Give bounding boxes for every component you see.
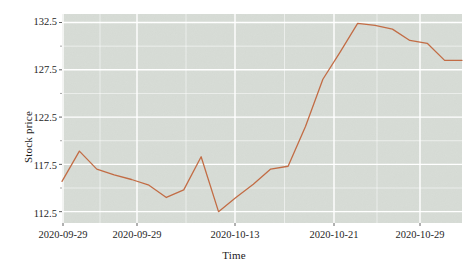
x-tick-label: 2020-10-29: [396, 229, 445, 240]
chart-figure: Stock price Time 132.5 127.5 122.5 117.5…: [0, 0, 468, 274]
x-tick-label: 2020-10-21: [310, 229, 359, 240]
x-tick-label: 2020-09-29: [113, 229, 162, 240]
x-axis-tick-labels: 2020-09-29 2020-09-29 2020-10-13 2020-10…: [0, 0, 468, 274]
x-tick-label: 2020-10-13: [211, 229, 260, 240]
x-tick-label: 2020-09-29: [39, 229, 88, 240]
